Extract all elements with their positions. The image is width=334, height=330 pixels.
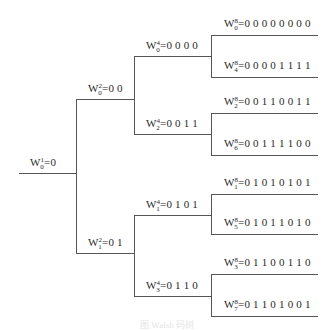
leaf-label-2: W82=0 0 1 1 0 0 1 1 xyxy=(224,95,311,109)
level2-branch-1 xyxy=(76,253,134,254)
level4-branch-3 xyxy=(134,296,211,297)
leaf-label-4: W81=0 1 0 1 0 1 0 1 xyxy=(224,176,311,190)
leaf-label-6: W83=0 1 1 0 0 1 1 0 xyxy=(224,256,311,270)
level4-node-label-0: W40=0 0 0 0 xyxy=(146,39,198,53)
leaf-label-0: W80=0 0 0 0 0 0 0 0 xyxy=(224,17,311,31)
level2-branch-0 xyxy=(76,99,134,100)
level4-split-line-0 xyxy=(211,35,212,77)
leaf-line-3 xyxy=(211,155,318,156)
level4-node-label-1: W42=0 0 1 1 xyxy=(146,117,198,131)
level2-split-line-0 xyxy=(134,56,135,134)
level4-split-line-1 xyxy=(211,113,212,155)
root-split-line xyxy=(76,99,77,253)
root-branch-line xyxy=(19,173,76,174)
leaf-label-3: W86=0 0 1 1 1 1 0 0 xyxy=(224,137,311,151)
level4-split-line-3 xyxy=(211,274,212,316)
leaf-label-7: W87=0 1 1 0 1 0 0 1 xyxy=(224,298,311,312)
leaf-line-2 xyxy=(211,113,318,114)
leaf-line-0 xyxy=(211,35,318,36)
level2-split-line-1 xyxy=(134,215,135,296)
level4-branch-0 xyxy=(134,56,211,57)
leaf-line-6 xyxy=(211,274,318,275)
leaf-line-1 xyxy=(211,77,318,78)
leaf-line-7 xyxy=(211,316,318,317)
level4-node-label-3: W43=0 1 1 0 xyxy=(146,279,198,293)
root-node-label: W10=0 xyxy=(30,156,56,170)
walsh-code-tree-diagram: W10=0 W20=0 0 W21=0 1 W40=0 0 0 0 W42=0 … xyxy=(0,0,334,330)
leaf-line-4 xyxy=(211,194,318,195)
level2-node-label-0: W20=0 0 xyxy=(88,82,123,96)
level2-node-label-1: W21=0 1 xyxy=(88,236,123,250)
level4-split-line-2 xyxy=(211,194,212,234)
level4-branch-1 xyxy=(134,134,211,135)
level4-branch-2 xyxy=(134,215,211,216)
level4-node-label-2: W41=0 1 0 1 xyxy=(146,198,198,212)
leaf-label-5: W85=0 1 0 1 1 0 1 0 xyxy=(224,216,311,230)
leaf-line-5 xyxy=(211,234,318,235)
figure-caption: 图 Walsh 码树 xyxy=(0,318,334,330)
leaf-label-1: W84=0 0 0 0 1 1 1 1 xyxy=(224,59,311,73)
